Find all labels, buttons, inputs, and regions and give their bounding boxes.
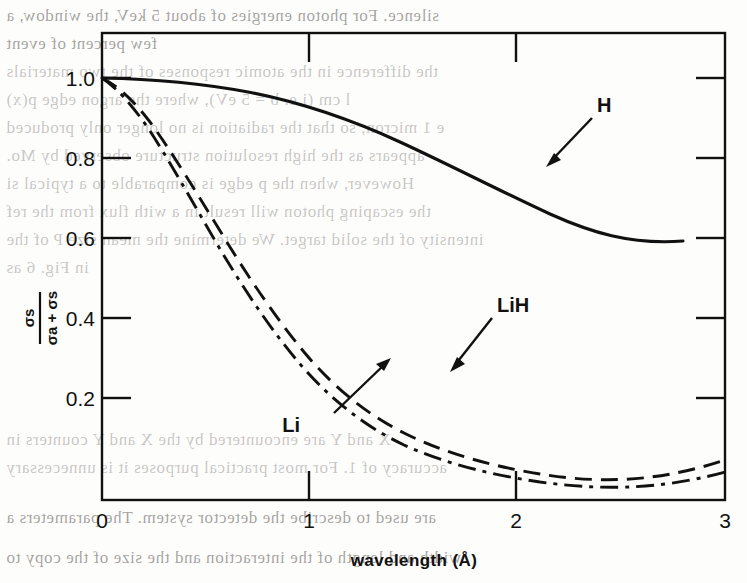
x-tick-label-2: 2: [510, 509, 522, 532]
y-tick-label-0.8: 0.8: [66, 147, 95, 170]
x-axis-title: wavelength (Å): [350, 551, 478, 570]
curve-label-h: H: [597, 94, 611, 116]
y-axis-title: σs σa + σs: [20, 291, 60, 345]
x-axis-ticks-top: [309, 33, 516, 62]
figure-page: silence. For photon energies of about 5 …: [0, 0, 747, 583]
scattering-fraction-chart: 1.0 0.8 0.6 0.4 0.2 0 1 2 3 H LiH Li wav…: [0, 0, 747, 583]
y-tick-label-0.6: 0.6: [66, 227, 95, 250]
x-axis-ticks: [309, 471, 516, 500]
curve-lih: [102, 78, 725, 480]
curve-label-li: Li: [282, 414, 300, 436]
lih-annotation-arrow: [450, 318, 492, 372]
y-axis-ticks: [102, 78, 131, 398]
x-tick-label-3: 3: [719, 509, 731, 532]
curve-label-lih: LiH: [497, 294, 529, 316]
curve-h: [102, 78, 683, 242]
y-tick-labels: 1.0 0.8 0.6 0.4 0.2: [66, 67, 96, 410]
y-axis-title-denominator: σa + σs: [43, 291, 60, 345]
x-tick-labels: 0 1 2 3: [96, 509, 731, 532]
y-axis-title-numerator: σs: [20, 309, 37, 328]
y-tick-label-0.2: 0.2: [66, 387, 95, 410]
plot-border: [102, 33, 725, 500]
curve-li: [102, 78, 725, 487]
axis-frame: [102, 33, 725, 500]
chart-plot-area: 1.0 0.8 0.6 0.4 0.2 0 1 2 3 H LiH Li wav…: [0, 0, 747, 583]
y-tick-label-0.4: 0.4: [66, 307, 96, 330]
y-axis-ticks-right: [696, 78, 725, 398]
h-annotation-arrow: [546, 118, 592, 167]
y-tick-label-1.0: 1.0: [66, 67, 95, 90]
x-tick-label-1: 1: [303, 509, 315, 532]
li-annotation-arrow: [334, 358, 391, 413]
x-tick-label-0: 0: [96, 509, 108, 532]
